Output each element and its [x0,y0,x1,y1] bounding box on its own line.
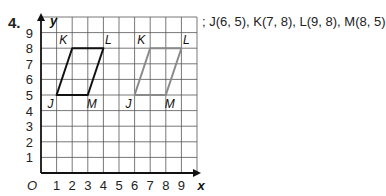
vertex-label-k: K [137,33,146,47]
vertex-label-j: J [125,97,133,111]
y-tick-label: 5 [26,88,33,103]
x-tick-label: 9 [178,178,185,193]
y-tick-label: 2 [26,135,33,150]
x-tick-label: 2 [69,178,76,193]
x-tick-label: 4 [100,178,107,193]
y-tick-label: 1 [26,150,33,165]
vertex-label-j: J [47,97,55,111]
x-tick-label: 3 [84,178,91,193]
y-tick-label: 4 [26,104,33,119]
y-axis-label: y [49,13,58,28]
y-tick-label: 8 [26,41,33,56]
x-tick-label: 7 [147,178,154,193]
x-tick-label: 1 [53,178,60,193]
x-tick-label: 5 [115,178,122,193]
vertex-label-l: L [183,33,190,47]
x-tick-label: 8 [162,178,169,193]
x-axis-label: x [196,178,205,193]
y-tick-label: 3 [26,119,33,134]
x-tick-label: 6 [131,178,138,193]
vertex-label-m: M [87,97,97,111]
vertex-label-m: M [165,97,175,111]
vertex-label-l: L [105,33,112,47]
origin-label: O [27,178,37,193]
y-tick-label: 6 [26,72,33,87]
y-tick-label: 9 [26,26,33,41]
y-tick-label: 7 [26,57,33,72]
vertex-label-k: K [59,33,68,47]
